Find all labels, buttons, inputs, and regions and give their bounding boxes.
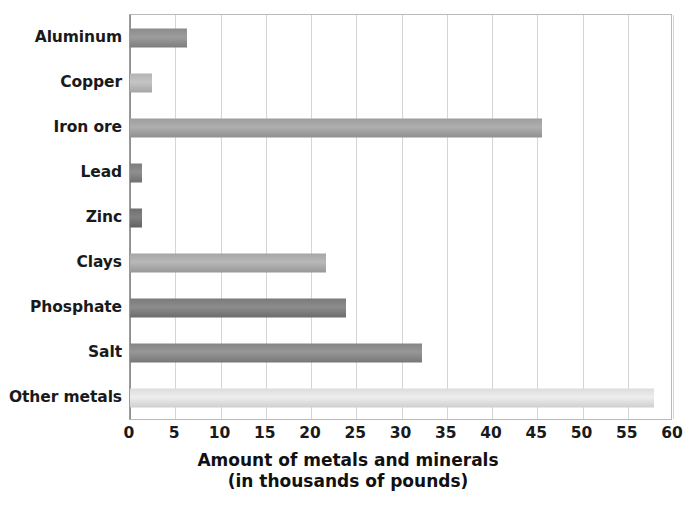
category-label-other-metals: Other metals	[0, 388, 122, 406]
category-label-lead: Lead	[0, 163, 122, 181]
bar-other-metals	[130, 389, 654, 408]
x-tick-label-30: 30	[390, 424, 412, 442]
category-axis-labels: AluminumCopperIron oreLeadZincClaysPhosp…	[0, 14, 122, 420]
x-tick-label-0: 0	[124, 424, 135, 442]
x-axis-title: Amount of metals and minerals (in thousa…	[0, 450, 696, 493]
category-label-copper: Copper	[0, 73, 122, 91]
gridline-45	[537, 15, 538, 419]
bar-zinc	[130, 209, 142, 228]
x-tick-label-35: 35	[435, 424, 457, 442]
x-axis-tick-labels: 051015202530354045505560	[129, 424, 672, 448]
category-label-salt: Salt	[0, 343, 122, 361]
x-axis-title-line2: (in thousands of pounds)	[0, 471, 696, 492]
x-tick-label-50: 50	[571, 424, 593, 442]
bar-phosphate	[130, 299, 346, 318]
category-label-clays: Clays	[0, 253, 122, 271]
category-label-phosphate: Phosphate	[0, 298, 122, 316]
bar-chart: AluminumCopperIron oreLeadZincClaysPhosp…	[0, 0, 696, 510]
bar-aluminum	[130, 28, 187, 47]
x-tick-label-40: 40	[480, 424, 502, 442]
x-tick-label-10: 10	[209, 424, 231, 442]
bar-copper	[130, 73, 152, 92]
bar-clays	[130, 254, 326, 273]
category-label-aluminum: Aluminum	[0, 28, 122, 46]
bar-iron-ore	[130, 118, 542, 137]
x-tick-label-60: 60	[661, 424, 683, 442]
x-tick-label-25: 25	[344, 424, 366, 442]
gridline-50	[583, 15, 584, 419]
bar-lead	[130, 163, 142, 182]
bar-salt	[130, 344, 422, 363]
category-label-iron-ore: Iron ore	[0, 118, 122, 136]
gridline-40	[492, 15, 493, 419]
plot-area	[129, 14, 672, 420]
x-tick-label-20: 20	[299, 424, 321, 442]
x-axis-title-line1: Amount of metals and minerals	[0, 450, 696, 471]
gridline-60	[673, 15, 674, 419]
x-tick-label-15: 15	[254, 424, 276, 442]
x-tick-label-45: 45	[525, 424, 547, 442]
category-label-zinc: Zinc	[0, 208, 122, 226]
x-tick-label-55: 55	[616, 424, 638, 442]
gridline-55	[628, 15, 629, 419]
x-tick-label-5: 5	[169, 424, 180, 442]
gridline-35	[447, 15, 448, 419]
